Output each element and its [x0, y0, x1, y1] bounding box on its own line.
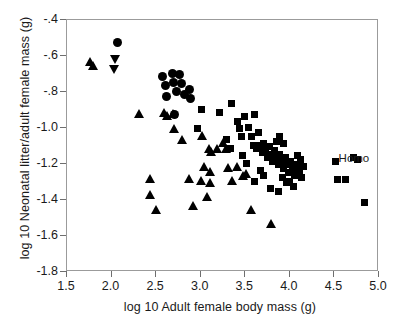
- data-point-square: [234, 118, 241, 125]
- data-point-tri-up: [246, 205, 256, 214]
- x-tick-label: 4.0: [269, 280, 309, 293]
- data-point-square: [227, 145, 234, 152]
- data-point-square: [198, 106, 205, 113]
- y-tick-mark: [60, 127, 66, 128]
- data-point-tri-up: [184, 174, 194, 183]
- data-point-tri-up: [266, 219, 276, 228]
- x-tick-label: 3.0: [180, 280, 220, 293]
- y-tick-label: -1.0: [20, 121, 58, 134]
- data-point-square: [290, 183, 297, 190]
- data-point-tri-up: [177, 135, 187, 144]
- y-tick-label: -.6: [20, 49, 58, 62]
- data-point-square: [216, 109, 223, 116]
- data-point-tri-up: [227, 176, 237, 185]
- y-tick-mark: [60, 163, 66, 164]
- data-point-square: [334, 176, 341, 183]
- data-point-tri-up: [145, 190, 155, 199]
- data-point-square: [245, 124, 252, 131]
- data-point-square: [236, 125, 243, 132]
- y-tick-mark: [60, 199, 66, 200]
- y-tick-label: -1.2: [20, 157, 58, 170]
- x-tick-mark: [111, 271, 112, 277]
- data-point-tri-down: [109, 65, 119, 74]
- data-point-tri-up: [134, 109, 144, 118]
- data-point-square: [255, 129, 262, 136]
- x-tick-mark: [333, 271, 334, 277]
- x-tick-mark: [378, 271, 379, 277]
- data-point-tri-up: [197, 131, 207, 140]
- data-point-tri-up: [88, 61, 98, 70]
- data-point-square: [297, 156, 304, 163]
- x-tick-label: 1.5: [46, 280, 86, 293]
- data-point-square: [280, 140, 287, 147]
- x-axis-label: log 10 Adult female body mass (g): [60, 300, 380, 314]
- data-point-square: [228, 100, 235, 107]
- y-tick-label: -1.6: [20, 229, 58, 242]
- x-tick-label: 2.5: [135, 280, 175, 293]
- data-point-tri-up: [169, 124, 179, 133]
- data-point-tri-up: [196, 176, 206, 185]
- data-point-square: [298, 174, 305, 181]
- y-tick-mark: [60, 19, 66, 20]
- data-point-circle: [175, 70, 184, 79]
- y-tick-label: -1.4: [20, 193, 58, 206]
- x-tick-label: 5.0: [358, 280, 395, 293]
- x-tick-mark: [155, 271, 156, 277]
- data-point-square: [342, 176, 349, 183]
- data-point-square: [243, 160, 250, 167]
- y-tick-mark: [60, 91, 66, 92]
- y-tick-label: -.8: [20, 85, 58, 98]
- data-point-tri-up: [188, 201, 198, 210]
- scatter-plot-figure: log 10 Neonatal litter/adult female mass…: [0, 0, 395, 330]
- x-tick-label: 4.5: [313, 280, 353, 293]
- data-point-square: [238, 133, 245, 140]
- data-point-square: [267, 185, 274, 192]
- data-point-circle: [158, 72, 167, 81]
- data-point-square: [275, 188, 282, 195]
- data-point-tri-down: [110, 55, 120, 64]
- point-annotation-label: Homo: [339, 152, 370, 164]
- data-point-square: [361, 199, 368, 206]
- data-point-square: [223, 136, 230, 143]
- x-tick-label: 2.0: [91, 280, 131, 293]
- data-point-tri-up: [205, 178, 215, 187]
- data-point-square: [251, 111, 258, 118]
- data-point-tri-up: [205, 167, 215, 176]
- data-point-tri-up: [241, 169, 251, 178]
- data-point-tri-up: [168, 109, 178, 118]
- data-point-square: [251, 178, 258, 185]
- data-point-square: [260, 172, 267, 179]
- x-tick-label: 3.5: [224, 280, 264, 293]
- data-point-square: [194, 125, 201, 132]
- y-tick-mark: [60, 55, 66, 56]
- data-point-tri-up: [151, 205, 161, 214]
- data-point-square: [276, 133, 283, 140]
- x-tick-mark: [244, 271, 245, 277]
- data-point-circle: [185, 85, 194, 94]
- data-point-tri-up: [145, 174, 155, 183]
- data-point-square: [241, 113, 248, 120]
- data-point-square: [239, 152, 246, 159]
- y-tick-label: -.4: [20, 13, 58, 26]
- y-tick-mark: [60, 235, 66, 236]
- x-tick-mark: [289, 271, 290, 277]
- x-tick-mark: [66, 271, 67, 277]
- data-point-square: [300, 163, 307, 170]
- data-point-tri-up: [202, 192, 212, 201]
- x-tick-mark: [200, 271, 201, 277]
- y-tick-label: -1.8: [20, 265, 58, 278]
- data-point-circle: [186, 94, 195, 103]
- data-point-square: [248, 133, 255, 140]
